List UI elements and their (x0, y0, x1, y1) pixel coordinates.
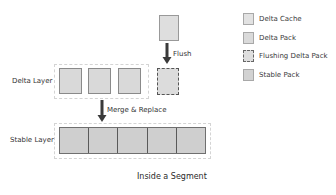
stable-layer-label: Stable Layer (10, 137, 54, 144)
delta-pack-1 (59, 68, 82, 94)
stable-pack-3 (118, 128, 147, 153)
delta-pack-3 (118, 68, 141, 94)
stable-packs-row (59, 127, 206, 154)
delta-layer-label: Delta Layer (12, 78, 52, 85)
diagram-title: Inside a Segment (137, 173, 207, 181)
stable-pack-4 (148, 128, 177, 153)
delta-cache-box (159, 15, 179, 41)
legend-label-flushing-delta-pack: Flushing Delta Pack (259, 53, 328, 60)
legend-swatch-delta-cache (243, 13, 254, 25)
legend-swatch-flushing-delta-pack (243, 50, 254, 62)
legend-label-delta-pack: Delta Pack (259, 35, 296, 42)
delta-pack-2 (88, 68, 111, 94)
flush-label: Flush (173, 51, 192, 58)
legend-swatch-stable-pack (243, 69, 254, 81)
merge-arrow-icon (97, 100, 107, 124)
legend-swatch-delta-pack (243, 32, 254, 44)
stable-pack-2 (89, 128, 118, 153)
merge-replace-label: Merge & Replace (107, 107, 166, 114)
legend-label-stable-pack: Stable Pack (259, 72, 300, 79)
stable-pack-1 (60, 128, 89, 153)
flushing-delta-pack (157, 68, 179, 95)
legend-label-delta-cache: Delta Cache (259, 16, 302, 23)
flush-arrow-icon (162, 43, 172, 67)
stable-pack-5 (177, 128, 205, 153)
